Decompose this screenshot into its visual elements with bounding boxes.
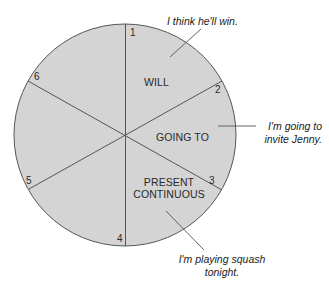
segment-number-3: 3 — [209, 176, 215, 186]
region-label-present-continuous: PRESENT CONTINUOUS — [130, 176, 208, 200]
example-going-to-line2: invite Jenny. — [260, 133, 322, 146]
region-label-going-to: GOING TO — [156, 131, 209, 143]
region-label-will: WILL — [144, 76, 169, 88]
example-present-continuous-line1: I'm playing squash — [172, 253, 272, 266]
example-going-to-line1: I'm going to — [260, 120, 322, 133]
segment-number-6: 6 — [34, 72, 40, 82]
region-label-present: PRESENT — [130, 176, 208, 188]
segment-number-2: 2 — [215, 85, 221, 95]
example-present-continuous-line2: tonight. — [172, 266, 272, 279]
example-will: I think he'll win. — [167, 15, 238, 28]
example-present-continuous: I'm playing squash tonight. — [172, 253, 272, 279]
segment-number-5: 5 — [26, 176, 32, 186]
example-going-to: I'm going to invite Jenny. — [260, 120, 322, 146]
segment-number-4: 4 — [117, 234, 123, 244]
segment-number-1: 1 — [130, 28, 136, 38]
region-label-continuous: CONTINUOUS — [130, 188, 208, 200]
